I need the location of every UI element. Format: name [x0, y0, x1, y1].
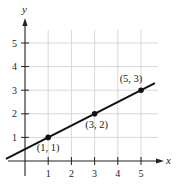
data-point	[45, 135, 51, 141]
y-tick-label: 4	[12, 61, 17, 72]
x-tick-label: 3	[92, 168, 97, 179]
data-point-label: (1, 1)	[37, 142, 60, 154]
x-tick-label: 1	[46, 168, 51, 179]
line-chart: 1234512345 (1, 1)(3, 2)(5, 3) x y	[0, 0, 180, 187]
ticks: 1234512345	[12, 38, 144, 180]
y-tick-label: 1	[12, 132, 17, 143]
grid	[25, 30, 158, 161]
x-tick-label: 4	[115, 168, 120, 179]
y-tick-label: 5	[12, 38, 17, 49]
data-point-label: (3, 2)	[85, 119, 108, 131]
x-tick-label: 2	[69, 168, 74, 179]
data-point-label: (5, 3)	[120, 73, 143, 85]
y-tick-label: 3	[12, 85, 17, 96]
data-point	[138, 87, 144, 93]
y-tick-label: 2	[12, 108, 17, 119]
data-line	[6, 83, 155, 159]
y-axis-arrow-icon	[22, 18, 27, 26]
x-axis-arrow-icon	[156, 158, 164, 163]
y-axis-label: y	[21, 3, 27, 15]
x-axis-label: x	[165, 154, 171, 166]
data-point	[92, 111, 98, 117]
x-tick-label: 5	[139, 168, 144, 179]
line-y-equals-half-x-plus-half	[6, 83, 155, 159]
